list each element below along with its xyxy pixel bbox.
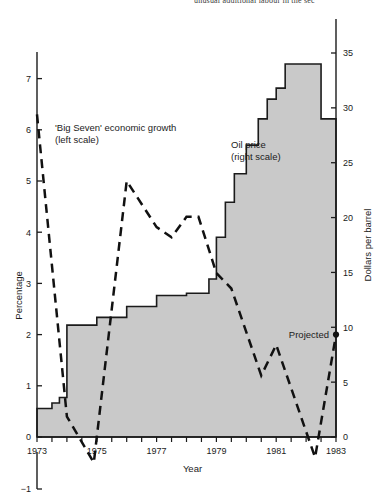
- x-axis-tick-label: 1977: [147, 446, 167, 456]
- x-axis-tick-label: 1981: [266, 446, 286, 456]
- right-axis-tick-label: 30: [343, 103, 353, 113]
- chart-root: unusual additional labour in the sec −10…: [0, 0, 384, 502]
- left-axis-tick-label: 6: [26, 125, 31, 135]
- oil-price-annotation: (right scale): [231, 151, 281, 162]
- right-axis-tick-label: 25: [343, 158, 353, 168]
- x-axis-tick-label: 1979: [206, 446, 226, 456]
- left-axis-tick-label: 7: [26, 74, 31, 84]
- right-axis-tick-label: 0: [343, 432, 348, 442]
- right-axis-tick-label: 5: [343, 378, 348, 388]
- dual-axis-chart: −101234567051015202530351973197519771979…: [0, 0, 384, 502]
- left-axis-tick-label: 0: [26, 432, 31, 442]
- projected-point-marker: [333, 332, 339, 338]
- growth-annotation: (left scale): [55, 134, 99, 145]
- right-axis-tick-label: 35: [343, 48, 353, 58]
- x-axis-tick-label: 1973: [27, 446, 47, 456]
- left-axis-tick-label: −1: [21, 484, 31, 494]
- x-axis-tick-label: 1983: [326, 446, 346, 456]
- left-axis-tick-label: 5: [26, 176, 31, 186]
- right-axis-tick-label: 20: [343, 213, 353, 223]
- growth-annotation: 'Big Seven' economic growth: [55, 122, 176, 133]
- x-axis-title: Year: [183, 463, 202, 474]
- right-axis-title: Dollars per barrel: [362, 209, 373, 282]
- left-axis-tick-label: 4: [26, 228, 31, 238]
- oil-price-annotation: Oil price: [231, 139, 266, 150]
- left-axis-tick-label: 3: [26, 279, 31, 289]
- left-axis-tick-label: 1: [26, 381, 31, 391]
- right-axis-tick-label: 10: [343, 323, 353, 333]
- projected-label: Projected: [289, 329, 329, 340]
- left-axis-title: Percentage: [13, 271, 24, 320]
- left-axis-tick-label: 2: [26, 330, 31, 340]
- oil-price-step-area: [37, 64, 336, 437]
- right-axis-tick-label: 15: [343, 268, 353, 278]
